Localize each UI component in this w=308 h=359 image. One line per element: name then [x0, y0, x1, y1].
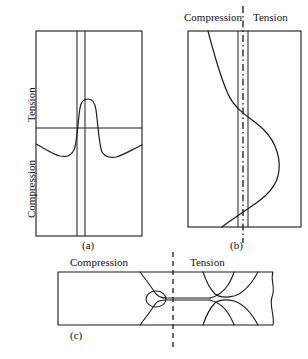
panel-c-header-compression: Compression [70, 257, 128, 268]
panel-c-flow-upper-right-inner [210, 272, 234, 298]
panel-b-header-tension: Tension [253, 12, 288, 23]
panel-c-flow-upper-right-outer [203, 272, 258, 297]
panel-b-header-compression: Compression [184, 12, 242, 23]
panel-a-caption: (a) [82, 240, 94, 251]
panel-a-group [36, 31, 142, 236]
panel-b-caption: (b) [230, 240, 243, 251]
panel-a-label-tension: Tension [26, 87, 37, 122]
panel-c-flow-lower-right-outer [203, 300, 258, 325]
panel-c-flow-lower-left [140, 300, 210, 325]
figure-canvas [0, 0, 308, 359]
panel-a-border [36, 31, 142, 236]
panel-c-header-tension: Tension [190, 257, 225, 268]
figure-root: Tension Compression Compression Tension … [0, 0, 308, 359]
panel-c-flow-upper-left [140, 272, 210, 298]
panel-c-caption: (c) [70, 330, 82, 341]
panel-b-group [188, 6, 301, 243]
panel-b-border [188, 31, 301, 227]
panel-a-label-compression: Compression [26, 160, 37, 218]
